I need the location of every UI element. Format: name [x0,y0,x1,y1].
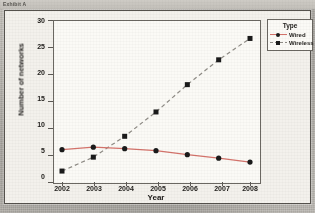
chart-panel: 30 25 20 15 10 5 0 [4,10,311,204]
legend-label-wireless: Wireless [289,40,314,46]
wireless-point-2003 [91,155,96,160]
wireless-point-2004 [122,134,127,139]
plot-area [53,20,261,184]
wireless-point-2008 [248,36,253,41]
chart-area: 30 25 20 15 10 5 0 [5,11,310,203]
y-tick-label-10: 10 [29,121,45,128]
page-caption: Exhibit A [3,0,26,8]
y-tick-label-25: 25 [29,43,45,50]
legend-item-wireless[interactable]: Wireless [270,39,310,47]
wired-point-2006 [185,152,190,157]
y-tick-label-15: 15 [29,95,45,102]
x-tick-label-2007: 2007 [207,185,237,192]
caption-strip: Exhibit A [0,0,315,9]
wireless-point-2002 [60,169,65,174]
wired-swatch-icon [270,31,287,38]
x-axis-title: Year [53,193,259,202]
y-axis-title: Number of networks [17,20,26,140]
wired-point-2002 [59,147,64,152]
legend-title: Type [270,22,310,29]
wired-point-2007 [216,156,221,161]
wireless-point-2006 [185,82,190,87]
wired-point-2008 [247,160,252,165]
x-tick-label-2003: 2003 [79,185,109,192]
wireless-point-2005 [154,109,159,114]
y-tick-label-20: 20 [29,69,45,76]
x-tick-label-2005: 2005 [143,185,173,192]
x-tick-label-2006: 2006 [175,185,205,192]
legend-item-wired[interactable]: Wired [270,31,310,39]
wired-point-2004 [122,146,127,151]
legend-label-wired: Wired [289,32,306,38]
wired-point-2003 [91,145,96,150]
y-tick-label-30: 30 [29,17,45,24]
wireless-point-2007 [216,57,221,62]
wired-point-2005 [153,148,158,153]
y-tick-label-0: 0 [29,173,45,180]
legend: Type Wired Wireless [267,19,313,51]
x-tick-label-2004: 2004 [111,185,141,192]
x-tick-label-2008: 2008 [235,185,265,192]
wireless-swatch-icon [270,39,287,46]
y-tick-label-5: 5 [29,147,45,154]
x-tick-label-2002: 2002 [47,185,77,192]
series-svg [54,21,258,181]
